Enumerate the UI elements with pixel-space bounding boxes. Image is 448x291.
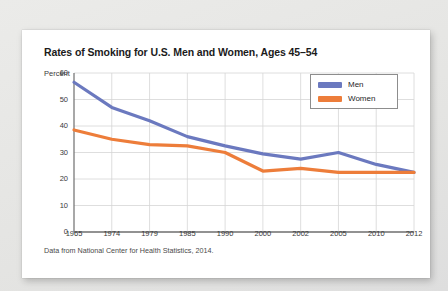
x-axis-tick-2012: 2012: [397, 229, 431, 238]
x-axis-tick-1985: 1985: [170, 229, 204, 238]
legend-swatch-women: [318, 96, 342, 102]
legend-entry-women: Women: [318, 93, 375, 105]
y-axis-tick-30: 30: [50, 148, 68, 157]
chart-legend: Men Women: [310, 74, 398, 109]
x-axis-tick-2000: 2000: [246, 229, 280, 238]
x-axis-tick-1979: 1979: [133, 229, 167, 238]
x-axis-tick-2005: 2005: [321, 229, 355, 238]
y-axis-tick-10: 10: [50, 201, 68, 210]
line-chart-svg: [22, 30, 430, 278]
x-axis-tick-1990: 1990: [208, 229, 242, 238]
legend-label-men: Men: [348, 81, 364, 89]
y-axis-tick-40: 40: [50, 121, 68, 130]
chart-card: Rates of Smoking for U.S. Men and Women,…: [22, 30, 430, 278]
y-axis-tick-50: 50: [50, 95, 68, 104]
x-axis-tick-1965: 1965: [57, 229, 91, 238]
y-axis-tick-60: 60: [50, 68, 68, 77]
source-caption: Data from National Center for Health Sta…: [44, 246, 213, 255]
legend-entry-men: Men: [318, 79, 364, 91]
figure-root: Rates of Smoking for U.S. Men and Women,…: [0, 0, 448, 291]
x-axis-tick-2010: 2010: [359, 229, 393, 238]
x-axis-tick-1974: 1974: [95, 229, 129, 238]
x-axis-tick-2002: 2002: [284, 229, 318, 238]
plot-area: [22, 30, 430, 278]
legend-swatch-men: [318, 82, 342, 88]
legend-label-women: Women: [348, 95, 375, 103]
y-axis-tick-20: 20: [50, 174, 68, 183]
